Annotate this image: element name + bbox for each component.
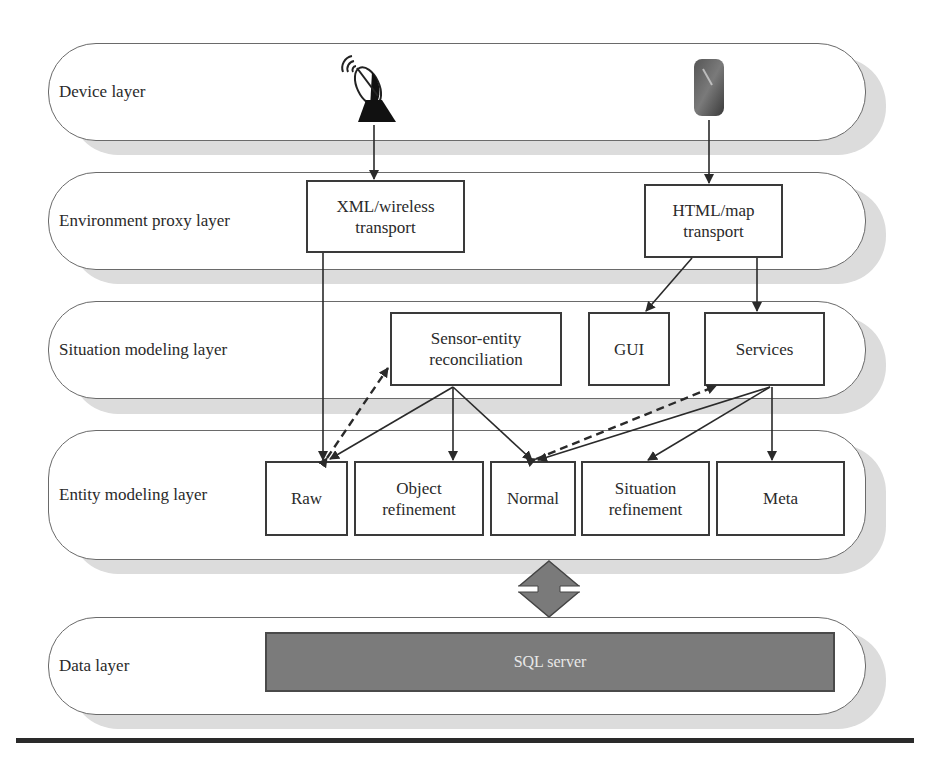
normal-box: Normal bbox=[490, 461, 576, 536]
box-label: refinement bbox=[382, 499, 456, 520]
box-label: HTML/map bbox=[672, 200, 754, 221]
box-label: transport bbox=[672, 221, 754, 242]
box-label: Raw bbox=[291, 488, 322, 509]
satellite-dish-icon bbox=[334, 50, 404, 126]
double-arrow-icon bbox=[516, 560, 582, 618]
xml-wireless-transport-box: XML/wirelesstransport bbox=[306, 180, 465, 253]
box-label: Normal bbox=[507, 488, 559, 509]
gui-box: GUI bbox=[588, 312, 670, 386]
box-label: XML/wireless bbox=[336, 196, 434, 217]
sensor-entity-reconciliation-box: Sensor-entityreconciliation bbox=[390, 312, 562, 386]
box-label: SQL server bbox=[514, 653, 587, 671]
box-label: transport bbox=[336, 217, 434, 238]
raw-box: Raw bbox=[265, 461, 348, 536]
object-refinement-box: Objectrefinement bbox=[354, 461, 484, 536]
services-box: Services bbox=[704, 312, 825, 386]
layer-label: Environment proxy layer bbox=[59, 211, 230, 231]
layer-label: Data layer bbox=[59, 656, 129, 676]
situation-refinement-box: Situationrefinement bbox=[581, 461, 710, 536]
box-label: reconciliation bbox=[429, 349, 522, 370]
box-label: Object bbox=[382, 478, 456, 499]
bottom-rule bbox=[16, 738, 914, 743]
box-label: Meta bbox=[763, 488, 798, 509]
layer-label: Device layer bbox=[59, 82, 145, 102]
layer-label: Situation modeling layer bbox=[59, 340, 227, 360]
box-label: Services bbox=[736, 339, 794, 360]
layer-label: Entity modeling layer bbox=[59, 485, 207, 505]
mobile-phone-icon bbox=[692, 57, 728, 119]
meta-box: Meta bbox=[716, 461, 845, 536]
box-label: Sensor-entity bbox=[429, 328, 522, 349]
sql-server-box: SQL server bbox=[265, 632, 835, 692]
box-label: GUI bbox=[614, 339, 644, 360]
device-layer: Device layer bbox=[48, 43, 866, 141]
box-label: refinement bbox=[609, 499, 683, 520]
html-map-transport-box: HTML/maptransport bbox=[644, 184, 783, 258]
box-label: Situation bbox=[609, 478, 683, 499]
